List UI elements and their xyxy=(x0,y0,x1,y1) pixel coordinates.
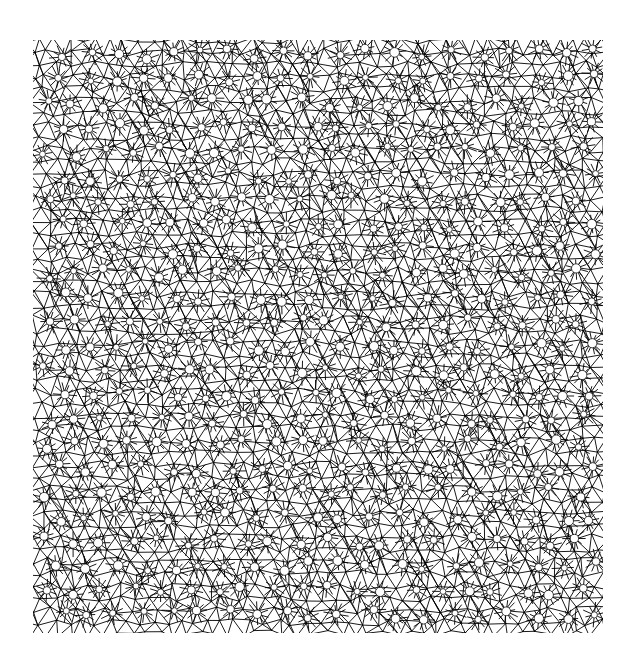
hub-hole xyxy=(71,268,77,274)
hub-hole xyxy=(362,469,369,476)
hub-hole xyxy=(419,242,427,250)
hub-hole xyxy=(226,79,234,87)
hub-hole xyxy=(153,535,159,541)
hub-hole xyxy=(446,227,452,233)
hub-hole xyxy=(116,176,123,183)
hub-hole xyxy=(202,395,209,402)
hub-hole xyxy=(546,365,555,374)
hub-hole xyxy=(173,295,181,303)
hub-hole xyxy=(172,608,178,614)
hub-hole xyxy=(286,178,292,184)
hub-hole xyxy=(530,119,539,128)
hub-hole xyxy=(101,367,108,374)
hub-hole xyxy=(297,540,305,548)
hub-hole xyxy=(496,443,503,450)
hub-hole xyxy=(382,323,391,332)
hub-hole xyxy=(263,420,272,429)
hub-hole xyxy=(305,296,314,305)
hub-hole xyxy=(392,464,400,472)
hub-hole xyxy=(487,417,494,424)
hub-hole xyxy=(403,536,411,544)
hub-hole xyxy=(468,532,477,541)
hub-hole xyxy=(194,338,201,345)
hub-hole xyxy=(178,265,187,274)
hub-hole xyxy=(321,272,327,278)
hub-hole xyxy=(534,470,542,478)
hub-hole xyxy=(209,148,218,157)
hub-hole xyxy=(193,245,201,253)
hub-hole xyxy=(366,395,375,404)
hub-hole xyxy=(588,339,597,348)
hub-hole xyxy=(433,414,441,422)
hub-hole xyxy=(51,561,60,570)
hub-hole xyxy=(506,47,513,54)
hub-hole xyxy=(87,240,94,247)
hub-hole xyxy=(522,416,529,423)
hub-hole xyxy=(307,468,313,474)
hub-hole xyxy=(356,438,362,444)
hub-hole xyxy=(434,143,441,150)
hub-hole xyxy=(271,319,278,326)
hub-hole xyxy=(250,55,258,63)
hub-hole xyxy=(493,492,502,501)
hub-hole xyxy=(192,469,200,477)
hub-hole xyxy=(323,533,332,542)
hub-hole xyxy=(194,174,203,183)
hub-hole xyxy=(192,606,200,614)
hub-hole xyxy=(563,71,573,81)
hub-hole xyxy=(474,558,483,567)
hub-hole xyxy=(164,74,173,83)
hub-hole xyxy=(435,484,442,491)
hub-hole xyxy=(572,264,581,273)
hub-hole xyxy=(493,535,501,543)
hub-hole xyxy=(440,200,446,206)
hub-hole xyxy=(517,199,524,206)
hub-hole xyxy=(419,394,425,400)
hub-hole xyxy=(546,542,554,550)
hub-hole xyxy=(424,465,433,474)
hub-hole xyxy=(468,420,476,428)
hub-hole xyxy=(538,79,544,85)
hub-hole xyxy=(473,121,480,128)
hub-hole xyxy=(587,219,597,229)
hub-hole xyxy=(250,563,259,572)
hub-hole xyxy=(254,346,263,355)
hub-hole xyxy=(304,557,313,566)
hub-hole xyxy=(567,121,573,127)
hub-hole xyxy=(483,460,490,467)
hub-hole xyxy=(534,294,540,300)
hub-hole xyxy=(446,343,454,351)
hub-hole xyxy=(450,249,459,258)
hub-hole xyxy=(194,298,201,305)
hub-hole xyxy=(395,78,401,84)
hub-hole xyxy=(328,491,334,497)
hub-hole xyxy=(157,318,163,324)
hub-hole xyxy=(144,176,151,183)
hub-hole xyxy=(518,274,525,281)
hub-hole xyxy=(200,219,208,227)
hub-hole xyxy=(552,435,561,444)
hub-hole xyxy=(502,299,509,306)
hub-hole xyxy=(391,396,398,403)
hub-hole xyxy=(116,388,123,395)
hub-hole xyxy=(94,538,103,547)
hub-hole xyxy=(55,74,62,81)
hub-hole xyxy=(333,556,342,565)
hub-hole xyxy=(71,437,79,445)
hub-hole xyxy=(518,373,524,379)
hub-hole xyxy=(96,415,102,421)
hub-hole xyxy=(113,77,122,86)
hub-hole xyxy=(408,437,416,445)
hub-hole xyxy=(392,246,398,252)
hub-hole xyxy=(185,412,193,420)
hub-hole xyxy=(412,268,420,276)
hub-hole xyxy=(404,200,410,206)
hub-hole xyxy=(209,420,216,427)
hub-hole xyxy=(83,611,90,618)
hub-hole xyxy=(510,249,517,256)
hub-hole xyxy=(297,271,303,277)
hub-hole xyxy=(43,587,51,595)
hub-hole xyxy=(477,294,486,303)
hub-hole xyxy=(304,52,312,60)
hub-hole xyxy=(593,171,599,177)
